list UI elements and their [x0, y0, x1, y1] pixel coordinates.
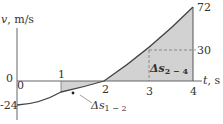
- ds12-label: Δs1 − 2: [91, 100, 127, 113]
- tick-label-2: 2: [102, 84, 109, 95]
- tick-label-72: 72: [197, 2, 211, 13]
- ds24-sub: 2 − 4: [165, 66, 188, 76]
- ds24-label: Δs2 − 4: [150, 63, 188, 75]
- ds24-base: Δs: [150, 62, 165, 75]
- tick-label-v0: 0: [6, 73, 13, 84]
- tick-label-3: 3: [146, 86, 153, 97]
- ds12-marker-dot: [72, 92, 75, 95]
- tick-label-30: 30: [197, 45, 211, 56]
- y-axis-label: v, m/s: [1, 14, 34, 25]
- tick-label-4: 4: [190, 86, 197, 97]
- tick-label-t0: 0: [17, 80, 24, 91]
- ds12-sub: 1 − 2: [105, 104, 127, 113]
- y-axis-unit: , m/s: [7, 13, 34, 26]
- x-axis-label: t, s: [203, 75, 220, 86]
- x-axis-unit: , s: [207, 74, 220, 87]
- tick-label-1: 1: [58, 69, 65, 80]
- tick-label-neg24: -24: [0, 100, 18, 111]
- ds12-base: Δs: [91, 99, 105, 112]
